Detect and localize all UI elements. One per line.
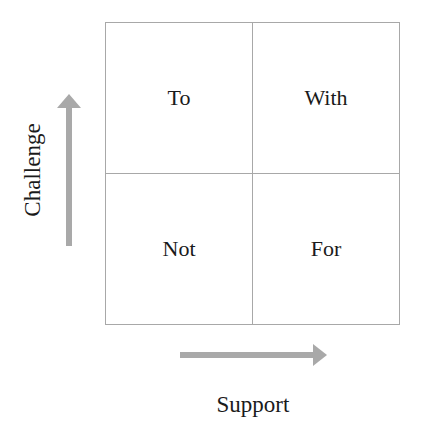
quadrant-top-right: With (253, 23, 399, 173)
quadrant-bottom-left: Not (106, 174, 252, 324)
arrow-up-icon (55, 92, 83, 248)
x-axis-label: Support (217, 392, 290, 418)
quadrant-bottom-right: For (253, 174, 399, 324)
quadrant-grid: To With Not For (105, 22, 400, 325)
quadrant-top-left: To (106, 23, 252, 173)
y-axis-label: Challenge (20, 123, 46, 216)
arrow-right-icon (178, 343, 330, 367)
